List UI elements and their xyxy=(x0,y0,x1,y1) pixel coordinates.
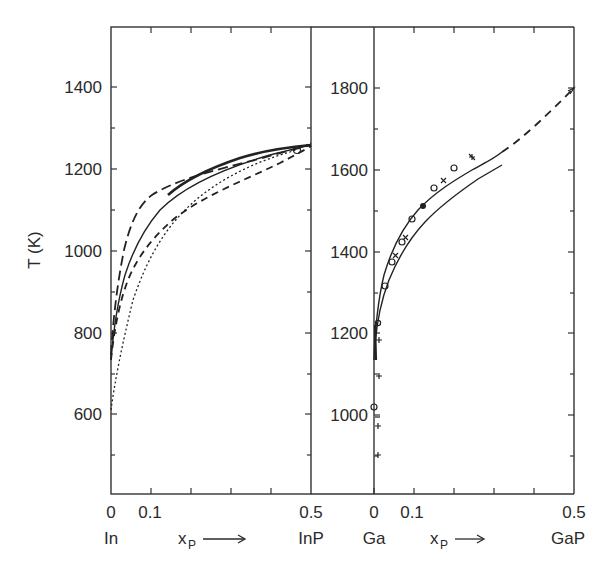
left-x-axis-title: x P xyxy=(178,529,245,552)
right-bottom-ticks xyxy=(374,488,534,494)
left-plot-frame xyxy=(111,27,311,494)
x-end-label-in: In xyxy=(104,529,118,548)
right-x-axis-title: x P xyxy=(430,529,484,552)
x-tick-label: 0.1 xyxy=(138,503,162,522)
y-tick-label: 1400 xyxy=(64,78,102,97)
x-tick-label: 0.5 xyxy=(562,503,586,522)
y-tick-label: 1600 xyxy=(330,161,368,180)
right-top-ticks xyxy=(414,27,534,33)
y-tick-label: 600 xyxy=(74,405,102,424)
x-tick-label: 0.1 xyxy=(400,503,424,522)
svg-text:P: P xyxy=(440,538,448,552)
phase-diagram: 1400 1200 1000 800 600 T (K) 0 0.1 0.5 I… xyxy=(0,0,612,572)
left-solid-curve xyxy=(111,145,311,360)
right-extrapolation-dashed xyxy=(502,88,574,152)
right-curves xyxy=(371,88,574,458)
x-end-label-gap: GaP xyxy=(551,529,585,548)
x-tick-label: 0 xyxy=(369,503,378,522)
x-end-label-ga: Ga xyxy=(363,529,386,548)
y-axis-title: T (K) xyxy=(25,231,44,268)
right-y-tick-labels: 1800 1600 1400 1200 1000 xyxy=(330,79,368,425)
right-upper-solid-curve xyxy=(374,152,502,360)
left-curves xyxy=(111,143,311,410)
y-tick-label: 1000 xyxy=(64,242,102,261)
y-tick-label: 1000 xyxy=(330,406,368,425)
svg-text:x: x xyxy=(178,529,187,548)
svg-text:P: P xyxy=(188,538,196,552)
svg-text:x: x xyxy=(430,529,439,548)
x-tick-label: 0 xyxy=(106,503,115,522)
data-markers xyxy=(371,154,475,458)
right-panel: 1800 1600 1400 1200 1000 0 0.1 0.5 Ga Ga… xyxy=(311,27,586,552)
x-end-label-inp: InP xyxy=(298,529,324,548)
left-medium-dash-curve xyxy=(111,146,311,360)
right-y-ticks xyxy=(374,88,574,456)
left-panel: 1400 1200 1000 800 600 T (K) 0 0.1 0.5 I… xyxy=(25,27,324,552)
y-tick-label: 1800 xyxy=(330,79,368,98)
left-dotted-curve xyxy=(111,143,311,410)
left-y-tick-labels: 1400 1200 1000 800 600 xyxy=(64,78,102,424)
y-tick-label: 1200 xyxy=(330,324,368,343)
left-bottom-ticks xyxy=(151,488,271,494)
y-tick-label: 800 xyxy=(74,324,102,343)
y-tick-label: 1200 xyxy=(64,160,102,179)
x-tick-label: 0.5 xyxy=(299,503,323,522)
left-top-ticks xyxy=(151,27,271,33)
y-tick-label: 1400 xyxy=(330,243,368,262)
left-y-ticks xyxy=(111,87,311,455)
